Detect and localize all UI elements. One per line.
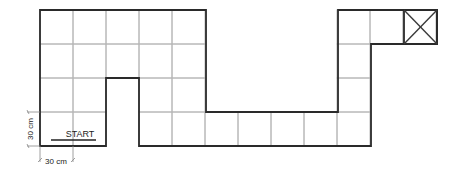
goal-x-icon <box>404 10 437 44</box>
start-label: START <box>66 129 95 139</box>
grid-cell <box>172 78 205 112</box>
grid-cell <box>337 10 370 44</box>
grid-cell <box>139 78 172 112</box>
width-label: 30 cm <box>45 157 67 166</box>
grid-cell <box>172 10 205 44</box>
grid-cell <box>238 112 271 146</box>
grid-cell <box>271 112 304 146</box>
grid-cell <box>172 44 205 78</box>
grid-cell <box>139 44 172 78</box>
grid-cell <box>106 44 139 78</box>
height-label: 30 cm <box>26 118 35 140</box>
height-dimension: 30 cm <box>26 110 40 148</box>
grid-cell <box>73 78 106 112</box>
grid-cell <box>139 10 172 44</box>
grid-cell <box>337 44 370 78</box>
grid-cell <box>172 112 205 146</box>
grid-cell <box>337 112 370 146</box>
grid-cell <box>403 10 436 44</box>
grid-cell <box>370 10 403 44</box>
grid-cell <box>139 112 172 146</box>
grid-cell <box>337 78 370 112</box>
grid-cell <box>73 10 106 44</box>
grid-cell <box>73 44 106 78</box>
grid-cell <box>106 10 139 44</box>
grid-cell <box>205 112 238 146</box>
start-marker: START <box>51 129 96 140</box>
grid-cell <box>40 44 73 78</box>
grid-cell <box>304 112 337 146</box>
width-dimension: 30 cm <box>38 146 75 166</box>
grid-cells <box>40 10 436 146</box>
grid-path-diagram: START 30 cm 30 cm <box>0 0 458 174</box>
grid-cell <box>40 78 73 112</box>
grid-cell <box>40 10 73 44</box>
